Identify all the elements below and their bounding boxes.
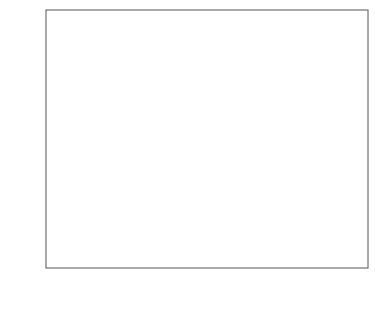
plot-box bbox=[46, 10, 368, 268]
cluster-plot bbox=[0, 0, 375, 309]
